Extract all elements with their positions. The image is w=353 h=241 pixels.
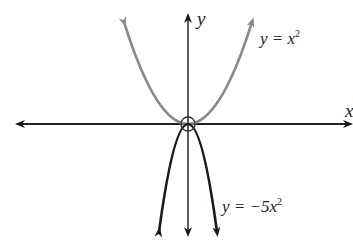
label-exponent: 2 <box>277 196 282 207</box>
label-text: y = −5x <box>222 197 277 216</box>
label-y-equals-neg5x-squared: y = −5x2 <box>222 196 282 217</box>
label-text: y = x <box>260 29 295 48</box>
x-axis-label: x <box>345 100 353 122</box>
label-y-equals-x-squared: y = x2 <box>260 28 300 49</box>
label-exponent: 2 <box>295 28 300 39</box>
y-axis-label: y <box>197 8 205 30</box>
